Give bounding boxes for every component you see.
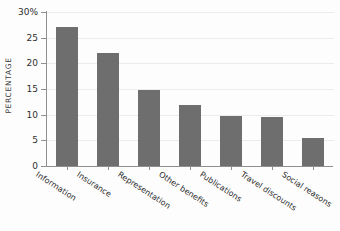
gridline — [46, 63, 334, 64]
y-axis-tick-label: 30% — [18, 7, 38, 17]
bar — [261, 117, 283, 166]
plot-area — [46, 12, 334, 166]
y-axis-tick-label: 20 — [27, 58, 38, 68]
x-axis-tick-mark — [108, 167, 109, 170]
x-axis-tick-mark — [67, 167, 68, 170]
x-axis-tick-label: Insurance — [75, 170, 113, 199]
bar — [179, 105, 201, 166]
y-axis-tick-label: 25 — [27, 33, 38, 43]
bar — [97, 53, 119, 166]
y-axis-tick-label: 10 — [27, 110, 38, 120]
gridline — [46, 12, 334, 13]
y-axis-line — [46, 11, 47, 167]
x-axis-tick-mark — [272, 167, 273, 170]
x-axis-tick-mark — [313, 167, 314, 170]
bar — [138, 90, 160, 166]
x-axis-tick-mark — [231, 167, 232, 170]
bar — [56, 27, 78, 166]
bar — [302, 138, 324, 166]
bar-chart: PERCENTAGE 30%2520151050 InformationInsu… — [0, 0, 340, 231]
gridline — [46, 38, 334, 39]
x-axis-labels: InformationInsuranceRepresentationOther … — [0, 167, 340, 231]
y-axis-tick-label: 5 — [32, 135, 38, 145]
x-axis-tick-mark — [149, 167, 150, 170]
bar — [220, 116, 242, 166]
gridline — [46, 89, 334, 90]
x-axis-tick-label: Information — [34, 170, 78, 203]
x-axis-tick-mark — [190, 167, 191, 170]
y-axis-tick-label: 15 — [27, 84, 38, 94]
